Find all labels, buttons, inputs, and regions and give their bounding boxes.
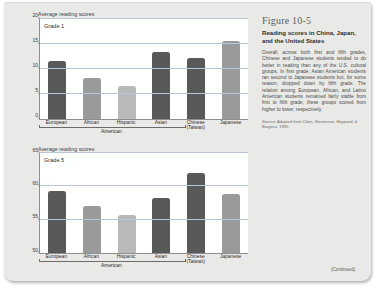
bar — [83, 78, 101, 119]
gridline — [40, 185, 248, 186]
bar-slot — [179, 153, 214, 253]
bar — [118, 215, 136, 253]
figure-source: Source: Adapted from Chen, Stevenson, Ha… — [262, 119, 366, 130]
chart-1-bars — [40, 19, 248, 119]
y-axis-tick-mark — [38, 117, 40, 118]
gridline — [40, 68, 248, 69]
gridline — [40, 18, 248, 19]
figure-body-text: Overall, across both first and fifth gra… — [262, 50, 366, 113]
y-axis-tick-mark — [38, 17, 40, 18]
figure-title: Reading scores in China, Japan, and the … — [262, 29, 366, 45]
x-axis-label: Japanese — [213, 120, 248, 127]
bar-slot — [75, 19, 110, 119]
chart-2-bracket-label: American — [39, 263, 184, 268]
bar — [118, 86, 136, 119]
gridline — [40, 219, 248, 220]
bar-slot — [109, 19, 144, 119]
bar — [222, 194, 240, 253]
continued-label: (Continued) — [331, 267, 355, 272]
bar-slot — [213, 19, 248, 119]
chart-2-bars — [40, 153, 248, 253]
chart-2-american-bracket — [39, 259, 186, 262]
chart-1-plot-area: Grade 1 05101520 — [39, 19, 248, 120]
bar-slot — [213, 153, 248, 253]
gridline — [40, 43, 248, 44]
chart-1-bracket-label: American — [39, 129, 184, 134]
bar-slot — [75, 153, 110, 253]
figure-page: Average reading scores Grade 1 05101520 … — [4, 2, 371, 281]
y-axis-tick-mark — [38, 252, 40, 253]
y-axis-tick-mark — [38, 218, 40, 219]
y-axis-tick-mark — [38, 185, 40, 186]
bar — [48, 191, 66, 253]
bar-slot — [144, 153, 179, 253]
chart-2-panel: Grade 5 50556065 EuropeanAfricanHispanic… — [20, 153, 248, 267]
gridline — [40, 152, 248, 153]
gridline — [40, 93, 248, 94]
y-axis-tick-mark — [38, 92, 40, 93]
y-axis-tick-mark — [38, 42, 40, 43]
charts-column: Average reading scores Grade 1 05101520 … — [20, 11, 250, 273]
chart-1-american-bracket — [39, 125, 186, 128]
bar — [48, 61, 66, 119]
chart-2-plot-area: Grade 5 50556065 — [39, 153, 248, 254]
bar-slot — [144, 19, 179, 119]
bar — [152, 198, 170, 253]
y-axis-tick-mark — [38, 152, 40, 153]
bar — [83, 206, 101, 253]
y-axis-tick-mark — [38, 67, 40, 68]
bar-slot — [109, 153, 144, 253]
x-axis-label: Japanese — [213, 254, 248, 261]
bar-slot — [179, 19, 214, 119]
bar-slot — [40, 153, 75, 253]
chart-1-panel: Grade 1 05101520 EuropeanAfricanHispanic… — [20, 19, 248, 133]
bar-slot — [40, 19, 75, 119]
figure-caption: Figure 10-5 Reading scores in China, Jap… — [262, 15, 366, 130]
bar — [222, 41, 240, 119]
bar — [152, 52, 170, 119]
figure-number: Figure 10-5 — [262, 15, 366, 26]
